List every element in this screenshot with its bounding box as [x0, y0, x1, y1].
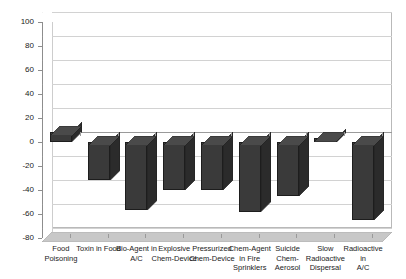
bar-front-face	[239, 142, 261, 212]
gridline-depth--40	[42, 180, 53, 191]
y-axis-label: -80	[4, 234, 34, 242]
y-axis-label: 80	[4, 42, 34, 50]
y-axis-label: 100	[4, 18, 34, 26]
bar	[163, 142, 185, 190]
bar-top-face	[352, 132, 384, 142]
y-tick--80	[38, 238, 42, 239]
y-tick--20	[38, 166, 42, 167]
y-tick-60	[38, 70, 42, 71]
gridline-60	[52, 60, 392, 61]
bar	[277, 142, 299, 196]
y-axis-label: 40	[4, 90, 34, 98]
bar-top-face	[88, 132, 120, 142]
x-axis-category-label: Radioactive inA/C	[340, 244, 386, 273]
y-axis-label: 60	[4, 66, 34, 74]
y-axis-label: 20	[4, 114, 34, 122]
gridline-100	[52, 12, 392, 13]
bar-top-face	[50, 122, 82, 132]
y-tick--40	[38, 190, 42, 191]
y-axis-label: -60	[4, 210, 34, 218]
y-tick-80	[38, 46, 42, 47]
gridline-40	[52, 84, 392, 85]
bar-front-face	[88, 142, 110, 180]
gridline-depth-60	[42, 60, 53, 71]
x-tick-baseline	[183, 234, 184, 238]
bar-front-face	[125, 142, 147, 210]
bar	[125, 142, 147, 210]
x-tick-baseline	[372, 234, 373, 238]
bar-top-face	[163, 132, 195, 142]
bar	[352, 142, 374, 220]
gridline-depth-20	[42, 108, 53, 119]
y-tick-0	[38, 142, 42, 143]
bar	[50, 132, 72, 142]
bar-chart: 100806040200-20-40-60-80 FoodPoisoningTo…	[0, 0, 406, 279]
x-tick-baseline	[259, 234, 260, 238]
x-tick	[155, 132, 156, 136]
x-tick	[118, 132, 119, 136]
x-tick-baseline	[70, 234, 71, 238]
x-tick-baseline	[334, 234, 335, 238]
bar-front-face	[201, 142, 223, 190]
x-tick-baseline	[221, 234, 222, 238]
bar-front-face	[277, 142, 299, 196]
gridline-depth-100	[42, 12, 53, 23]
bar-top-face	[239, 132, 271, 142]
y-tick--60	[38, 214, 42, 215]
bar-top-face	[201, 132, 233, 142]
bar	[88, 142, 110, 180]
bar-top-face	[125, 132, 157, 142]
x-tick	[306, 132, 307, 136]
gridline-depth-80	[42, 36, 53, 47]
x-axis-label-line: Radioactive in	[340, 244, 386, 263]
x-tick	[193, 132, 194, 136]
bar-front-face	[352, 142, 374, 220]
x-tick-baseline	[145, 234, 146, 238]
x-axis-label-line: Poisoning	[38, 254, 84, 264]
y-tick-20	[38, 118, 42, 119]
x-axis-label-line: A/C	[340, 263, 386, 273]
gridline-depth--20	[42, 156, 53, 167]
x-tick-baseline	[108, 234, 109, 238]
bar-top-face	[277, 132, 309, 142]
x-tick	[269, 132, 270, 136]
gridline-20	[52, 108, 392, 109]
bar-top-face	[314, 128, 346, 138]
bar-front-face	[163, 142, 185, 190]
chart-back-wall	[52, 12, 392, 228]
x-tick	[80, 132, 81, 136]
y-tick-40	[38, 94, 42, 95]
x-tick	[344, 132, 345, 136]
y-axis-label: -20	[4, 162, 34, 170]
gridline-80	[52, 36, 392, 37]
gridline--60	[52, 204, 392, 205]
floor-plane	[42, 228, 392, 238]
y-axis-label: -40	[4, 186, 34, 194]
x-tick-baseline	[296, 234, 297, 238]
bar	[239, 142, 261, 212]
x-tick	[382, 132, 383, 136]
gridline-depth--60	[42, 204, 53, 215]
x-tick	[231, 132, 232, 136]
y-axis-label: 0	[4, 138, 34, 146]
bar	[201, 142, 223, 190]
gridline-depth-40	[42, 84, 53, 95]
bar	[314, 138, 336, 142]
y-tick-100	[38, 22, 42, 23]
